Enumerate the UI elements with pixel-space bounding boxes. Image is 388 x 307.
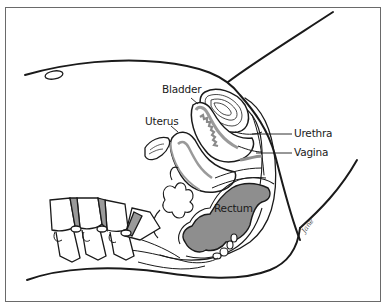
label-rectum: Rectum (214, 202, 253, 214)
bladder-leader (191, 98, 198, 104)
label-vagina: Vagina (294, 146, 328, 158)
label-bladder: Bladder (162, 83, 201, 95)
pelvic-anatomy-illustration (0, 0, 388, 307)
diagram-canvas: Bladder Uterus Urethra Vagina Rectum Jan… (0, 0, 388, 307)
ovary (145, 137, 170, 159)
label-urethra: Urethra (294, 127, 332, 139)
navel (44, 69, 63, 80)
rectum (179, 178, 274, 258)
vertebra-3 (105, 200, 128, 231)
label-uterus: Uterus (145, 115, 179, 127)
thigh-upper-contour (228, 12, 333, 82)
